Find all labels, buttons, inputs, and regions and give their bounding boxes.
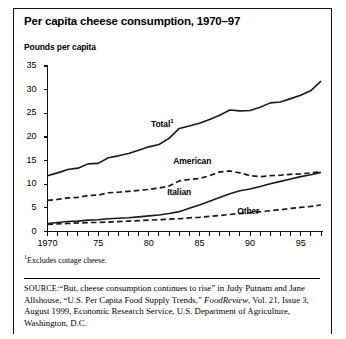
x-axis-tick-label: 90 (230, 238, 270, 248)
series-label-other: Other (237, 206, 259, 216)
y-axis-tick-label: 0 (15, 226, 37, 236)
y-axis-tick-label: 30 (15, 84, 37, 94)
chart-footnote: 1Excludes cottage cheese. (24, 256, 107, 265)
series-label-superscript: 1 (170, 118, 173, 124)
source-publication: FoodReview (204, 295, 248, 305)
y-axis-tick-label: 20 (15, 131, 37, 141)
y-axis-tick-label: 5 (15, 202, 37, 212)
series-label-american: American (173, 156, 211, 166)
series-label-italian: Italian (167, 187, 191, 197)
series-line-other (48, 205, 322, 224)
y-axis-tick-label: 35 (15, 60, 37, 70)
y-axis-tick-label: 25 (15, 107, 37, 117)
x-axis-tick-label: 95 (281, 238, 321, 248)
source-note: SOURCE:“But, cheese consumption continue… (24, 283, 322, 329)
figure-container: Per capita cheese consumption, 1970–97 P… (0, 0, 346, 339)
footnote-text: Excludes cottage cheese. (27, 256, 107, 265)
series-line-italian (48, 172, 322, 223)
x-axis-tick-label: 80 (129, 238, 169, 248)
x-axis-tick-label: 1970 (28, 238, 68, 248)
x-axis-tick-label: 75 (78, 238, 118, 248)
y-axis-tick-label: 10 (15, 178, 37, 188)
y-axis-tick-label: 15 (15, 155, 37, 165)
series-label-total: Total1 (151, 119, 173, 129)
x-axis-tick-label: 85 (179, 238, 219, 248)
source-divider (24, 278, 320, 279)
source-label: SOURCE: (24, 284, 59, 293)
